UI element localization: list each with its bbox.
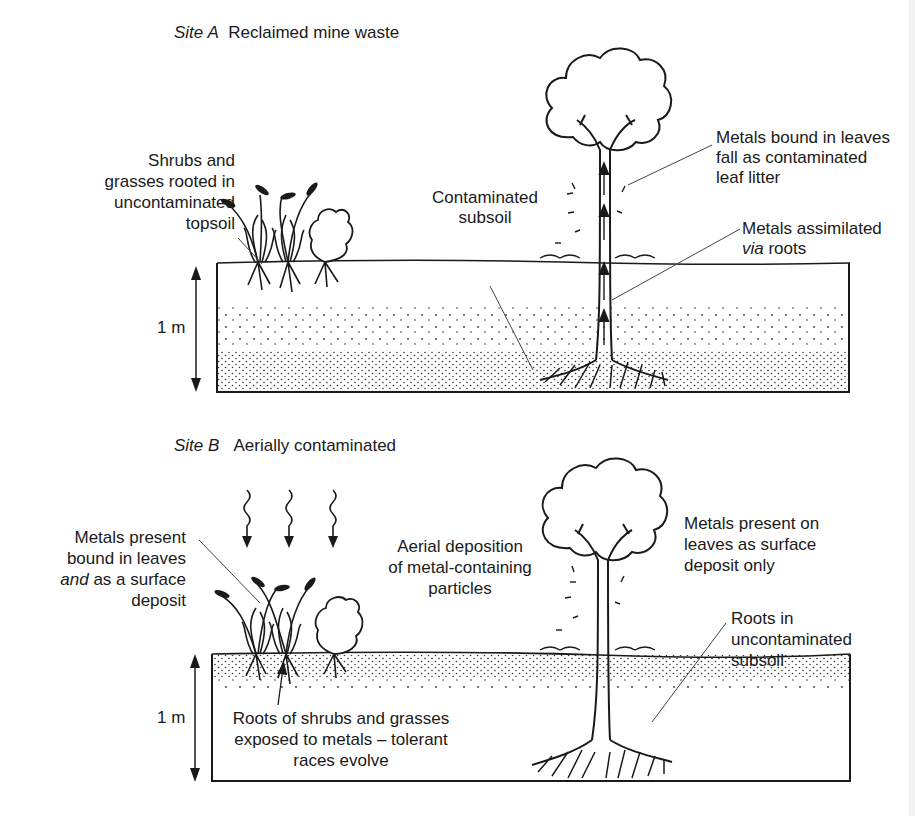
shrubs-label-line: grasses rooted in <box>40 171 235 192</box>
shrubs-label-line: Shrubs and <box>40 150 235 171</box>
metals-present-line: bound in leaves <box>40 548 186 569</box>
deposition-arrows-icon <box>244 490 336 536</box>
site-a-title-italic: Site A <box>174 23 219 42</box>
surface-text: as a surface <box>89 570 186 589</box>
roots-label-line: Roots in <box>731 608 852 629</box>
site-a-depth-arrow <box>191 266 201 392</box>
tolerant-races-label: Roots of shrubs and grasses exposed to m… <box>216 708 466 771</box>
metals-assimilated-label: Metals assimilated via roots <box>742 219 882 259</box>
metals-present-label: Metals present bound in leaves and as a … <box>40 527 186 611</box>
roots-text: roots <box>764 239 807 258</box>
page-edge-shadow <box>909 0 915 816</box>
subsoil-label-line: Contaminated <box>420 188 550 208</box>
surface-deposit-label: Metals present on leaves as surface depo… <box>684 513 819 576</box>
surface-deposit-line: deposit only <box>684 555 819 576</box>
surface-deposit-line: leaves as surface <box>684 534 819 555</box>
site-b-depth-label: 1 m <box>157 708 185 728</box>
leaf-litter-label: Metals bound in leaves fall as contamina… <box>716 128 890 188</box>
roots-label-line: uncontaminated <box>731 629 852 650</box>
site-b-title: Site B Aerially contaminated <box>174 436 396 456</box>
roots-label-line: subsoil <box>731 650 852 671</box>
site-b-depth-arrow <box>190 654 200 782</box>
site-a-falling-leaves <box>540 183 655 258</box>
site-a-shrub-icon <box>310 209 353 262</box>
and-italic: and <box>60 570 88 589</box>
leaf-litter-label-line: Metals bound in leaves <box>716 128 890 148</box>
site-b-title-text: Aerially contaminated <box>234 436 397 455</box>
tolerant-label-line: exposed to metals – tolerant <box>216 729 466 750</box>
deposition-arrowheads <box>242 536 338 548</box>
tolerant-label-line: races evolve <box>216 750 466 771</box>
metals-present-line: Metals present <box>40 527 186 548</box>
shrubs-label: Shrubs and grasses rooted in uncontamina… <box>40 150 235 234</box>
site-b-title-italic: Site B <box>174 436 219 455</box>
diagram-canvas <box>0 0 915 816</box>
metals-assimilated-line: Metals assimilated <box>742 219 882 239</box>
metals-assimilated-line: via roots <box>742 239 882 259</box>
site-b-shrub-icon <box>316 597 363 654</box>
site-a-title-text: Reclaimed mine waste <box>228 23 399 42</box>
aerial-label-line: of metal-containing <box>362 557 558 578</box>
tolerant-label-line: Roots of shrubs and grasses <box>216 708 466 729</box>
via-italic: via <box>742 239 764 258</box>
site-b-tree-icon <box>532 458 672 778</box>
aerial-label-line: particles <box>362 578 558 599</box>
site-a-depth-label: 1 m <box>157 318 185 338</box>
contaminated-subsoil-label: Contaminated subsoil <box>420 188 550 228</box>
subsoil-label-line: subsoil <box>420 208 550 228</box>
surface-deposit-line: Metals present on <box>684 513 819 534</box>
aerial-deposition-label: Aerial deposition of metal-containing pa… <box>362 536 558 599</box>
leaf-litter-label-line: leaf litter <box>716 168 890 188</box>
roots-uncontaminated-label: Roots in uncontaminated subsoil <box>731 608 852 671</box>
metals-present-line: deposit <box>40 590 186 611</box>
site-a-title: Site A Reclaimed mine waste <box>174 23 399 43</box>
shrubs-label-line: topsoil <box>40 213 235 234</box>
site-a-soil-block <box>217 260 850 392</box>
metals-present-line: and as a surface <box>40 569 186 590</box>
leaf-litter-label-line: fall as contaminated <box>716 148 890 168</box>
shrubs-label-line: uncontaminated <box>40 192 235 213</box>
aerial-label-line: Aerial deposition <box>362 536 558 557</box>
